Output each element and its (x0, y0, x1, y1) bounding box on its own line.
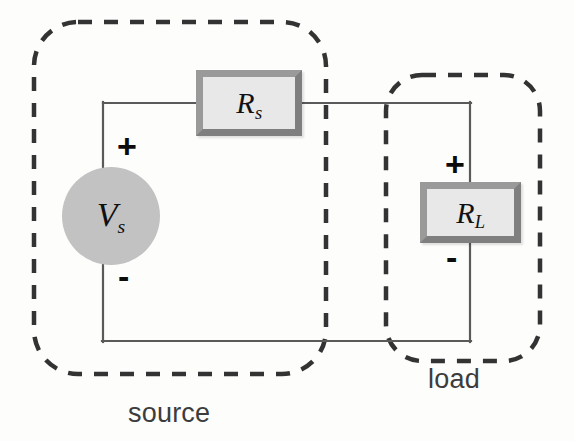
voltage-source-symbol[interactable]: Vs (62, 167, 160, 265)
voltage-source-letter: V (97, 196, 118, 233)
rs-label: Rs (203, 88, 295, 118)
voltage-source-subscript: s (118, 215, 126, 237)
source-minus-sign: - (118, 259, 129, 293)
rl-subscript: L (475, 211, 485, 232)
load-plus-sign: + (445, 147, 465, 181)
rl-label: RL (427, 198, 514, 228)
load-resistor-rl[interactable]: RL (420, 182, 521, 243)
rs-subscript: s (255, 102, 262, 123)
voltage-source-label: Vs (62, 198, 160, 232)
circuit-diagram-canvas: Vs Rs RL + - + - source load (0, 0, 574, 441)
load-region-label: load (428, 364, 480, 395)
rs-letter: R (236, 86, 254, 119)
source-plus-sign: + (117, 129, 137, 163)
load-minus-sign: - (446, 240, 457, 274)
source-region-label: source (128, 398, 210, 429)
rl-letter: R (456, 196, 474, 229)
series-resistor-rs[interactable]: Rs (196, 70, 302, 136)
